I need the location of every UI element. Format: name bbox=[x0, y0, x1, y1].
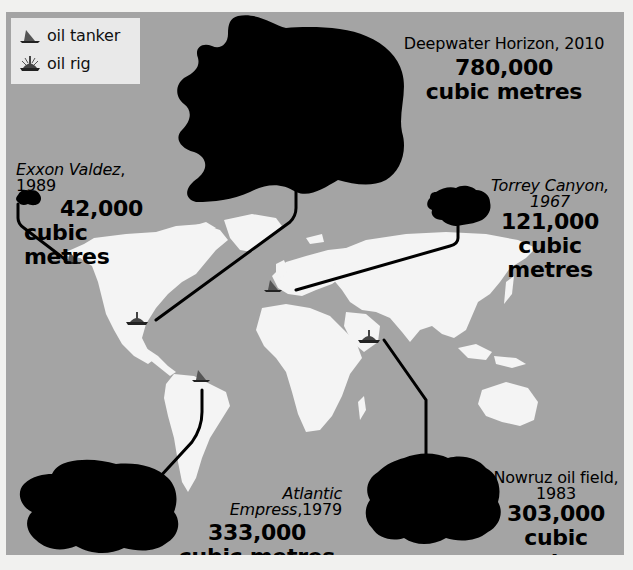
spill-unit: cubic metres bbox=[488, 234, 612, 282]
callout-torrey-canyon: Torrey Canyon, 1967 121,000 cubic metres bbox=[488, 178, 612, 281]
spill-year: 1983 bbox=[492, 486, 620, 502]
callout-deepwater-horizon: Deepwater Horizon, 2010 780,000 cubic me… bbox=[394, 36, 614, 104]
oil-rig-icon[interactable] bbox=[126, 312, 148, 325]
oil-tanker-icon[interactable] bbox=[264, 280, 282, 292]
legend-label: oil tanker bbox=[47, 26, 120, 45]
legend-label: oil rig bbox=[47, 54, 91, 73]
spill-unit: cubic metres bbox=[492, 526, 620, 555]
spill-volume: 42,000 bbox=[12, 197, 162, 221]
spill-unit: cubic metres bbox=[12, 221, 162, 269]
legend-item-oil-tanker: oil tanker bbox=[19, 26, 120, 45]
spill-unit: cubic metres bbox=[394, 80, 614, 104]
legend: oil tanker oil rig bbox=[11, 18, 140, 84]
callout-atlantic-empress: Atlantic Empress,1979 333,000 cubic metr… bbox=[172, 486, 342, 555]
spill-volume: 303,000 bbox=[492, 502, 620, 526]
map-panel: oil tanker oil rig Deepwater Horizon, 20… bbox=[6, 12, 624, 555]
spill-unit: cubic metres bbox=[172, 545, 342, 555]
oil-tanker-icon[interactable] bbox=[192, 370, 210, 382]
spill-volume: 780,000 bbox=[394, 56, 614, 80]
oil-tanker-icon bbox=[19, 28, 41, 44]
spill-volume: 121,000 bbox=[488, 210, 612, 234]
spill-name: Deepwater Horizon, 2010 bbox=[394, 36, 614, 52]
legend-item-oil-rig: oil rig bbox=[19, 54, 91, 73]
callout-nowruz: Nowruz oil field, 1983 303,000 cubic met… bbox=[492, 470, 620, 555]
oil-rig-icon bbox=[19, 55, 41, 73]
spill-year: ,1979 bbox=[297, 500, 342, 519]
callout-exxon-valdez: Exxon Valdez, 1989 42,000 cubic metres bbox=[12, 162, 162, 268]
spill-volume: 333,000 bbox=[172, 521, 342, 545]
oil-rig-icon[interactable] bbox=[358, 330, 380, 343]
